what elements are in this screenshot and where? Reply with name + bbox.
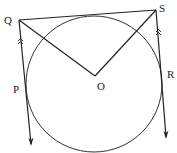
label-S: S — [159, 2, 165, 14]
tangent-line-SR — [156, 10, 166, 137]
label-P: P — [13, 83, 19, 95]
geometry-diagram: Q S O P R — [0, 0, 177, 153]
line-QS — [19, 10, 156, 20]
label-O: O — [97, 80, 105, 92]
circle — [26, 16, 162, 152]
line-SO — [95, 10, 156, 76]
line-QO — [19, 20, 95, 76]
label-R: R — [167, 68, 175, 80]
label-Q: Q — [4, 14, 12, 26]
